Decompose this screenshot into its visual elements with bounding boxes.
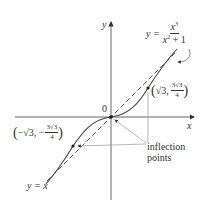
inflection-point-upper — [146, 86, 149, 89]
formula-fraction: x3 x2 + 1 — [163, 22, 186, 45]
formula-denominator: x2 + 1 — [163, 34, 186, 45]
origin-label: 0 — [102, 104, 107, 114]
pointer-line-lower — [78, 144, 146, 146]
asymptote-label: y = x — [27, 181, 48, 191]
inflection-point-lower — [71, 144, 74, 147]
pointer-line-origin — [115, 120, 146, 143]
lower-point-label: ( −√3, − 3√34 ) — [13, 124, 63, 141]
origin-point — [109, 115, 113, 119]
inflection-points-label: inflection points — [147, 141, 185, 163]
x-axis-label: x — [187, 121, 191, 131]
formula-lhs: y = — [146, 29, 160, 39]
curve-formula-label: y = x3 x2 + 1 — [146, 22, 186, 45]
curve-label-pointer — [178, 49, 190, 62]
formula-numerator: x3 — [170, 22, 179, 34]
y-axis-label: y — [102, 20, 106, 30]
upper-point-label: ( √3, 3√34 ) — [151, 82, 188, 99]
